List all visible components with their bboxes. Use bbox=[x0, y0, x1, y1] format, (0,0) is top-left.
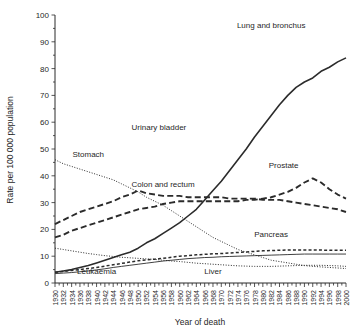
x-tick-label: 1932 bbox=[60, 290, 67, 306]
x-tick-label: 1936 bbox=[77, 290, 84, 306]
x-tick-label: 1952 bbox=[143, 290, 150, 306]
cancer-mortality-line-chart: 0102030405060708090100 19301932193419361… bbox=[0, 0, 359, 331]
x-tick-label: 1944 bbox=[110, 290, 117, 306]
x-tick-label: 1980 bbox=[260, 290, 267, 306]
x-tick-label: 1978 bbox=[252, 290, 259, 306]
y-tick-label: 50 bbox=[40, 145, 49, 154]
series-label-stomach: Stomach bbox=[72, 150, 104, 159]
y-tick-label: 40 bbox=[40, 172, 49, 181]
series-line-lung-and-bronchus bbox=[55, 58, 346, 272]
x-tick-label: 1948 bbox=[127, 290, 134, 306]
x-tick-label: 1930 bbox=[52, 290, 59, 306]
x-tick-label: 1972 bbox=[227, 290, 234, 306]
series-line-colon-and-rectum bbox=[55, 191, 346, 225]
series-label-liver: Liver bbox=[204, 267, 222, 276]
x-tick-label: 1938 bbox=[85, 290, 92, 306]
x-tick-label: 1954 bbox=[152, 290, 159, 306]
x-tick-label: 1996 bbox=[326, 290, 333, 306]
x-tick-label: 1982 bbox=[268, 290, 275, 306]
x-tick-label: 1934 bbox=[69, 290, 76, 306]
x-tick-label: 1958 bbox=[168, 290, 175, 306]
series-label-colon-and-rectum: Colon and rectum bbox=[132, 180, 195, 189]
x-tick-label: 1998 bbox=[335, 290, 342, 306]
series-label-lung-and-bronchus: Lung and bronchus bbox=[237, 21, 306, 30]
x-tick-label: 1946 bbox=[119, 290, 126, 306]
y-axis-title: Rate per 100 000 population bbox=[5, 96, 15, 204]
chart-canvas: 0102030405060708090100 19301932193419361… bbox=[0, 0, 359, 331]
x-tick-label: 2000 bbox=[343, 290, 350, 306]
x-tick-label: 1988 bbox=[293, 290, 300, 306]
x-tick-label: 1992 bbox=[310, 290, 317, 306]
y-tick-label: 90 bbox=[40, 38, 49, 47]
x-tick-label: 1986 bbox=[285, 290, 292, 306]
y-tick-label: 60 bbox=[40, 118, 49, 127]
x-tick-label: 1994 bbox=[318, 290, 325, 306]
series-line-stomach bbox=[55, 160, 346, 269]
x-tick-label: 1970 bbox=[218, 290, 225, 306]
y-axis: 0102030405060708090100 bbox=[36, 11, 55, 288]
x-tick-label: 1990 bbox=[301, 290, 308, 306]
x-tick-label: 1984 bbox=[276, 290, 283, 306]
y-tick-label: 0 bbox=[45, 279, 50, 288]
x-axis: 1930193219341936193819401942194419461948… bbox=[52, 283, 350, 306]
x-tick-label: 1976 bbox=[243, 290, 250, 306]
x-tick-label: 1974 bbox=[235, 290, 242, 306]
x-tick-label: 1964 bbox=[193, 290, 200, 306]
x-tick-label: 1956 bbox=[160, 290, 167, 306]
y-tick-label: 10 bbox=[40, 252, 49, 261]
y-tick-label: 100 bbox=[36, 11, 50, 20]
series-label-pancreas: Pancreas bbox=[254, 230, 288, 239]
series-label-leukaemia: Leukaemia bbox=[77, 267, 117, 276]
x-tick-label: 1968 bbox=[210, 290, 217, 306]
series-line-prostate bbox=[55, 178, 346, 237]
x-tick-label: 1966 bbox=[202, 290, 209, 306]
x-axis-title: Year of death bbox=[175, 317, 226, 327]
y-tick-label: 20 bbox=[40, 225, 49, 234]
series-annotations: Lung and bronchusUrinary bladderStomachP… bbox=[72, 21, 305, 276]
y-tick-label: 70 bbox=[40, 91, 49, 100]
x-tick-label: 1950 bbox=[135, 290, 142, 306]
series-line-liver bbox=[55, 248, 346, 266]
series-label-prostate: Prostate bbox=[269, 161, 299, 170]
series-label-urinary-bladder: Urinary bladder bbox=[132, 123, 187, 132]
x-tick-label: 1940 bbox=[94, 290, 101, 306]
y-tick-label: 30 bbox=[40, 199, 49, 208]
y-tick-label: 80 bbox=[40, 65, 49, 74]
x-tick-label: 1942 bbox=[102, 290, 109, 306]
x-tick-label: 1962 bbox=[185, 290, 192, 306]
data-series-group bbox=[55, 58, 346, 274]
x-tick-label: 1960 bbox=[177, 290, 184, 306]
